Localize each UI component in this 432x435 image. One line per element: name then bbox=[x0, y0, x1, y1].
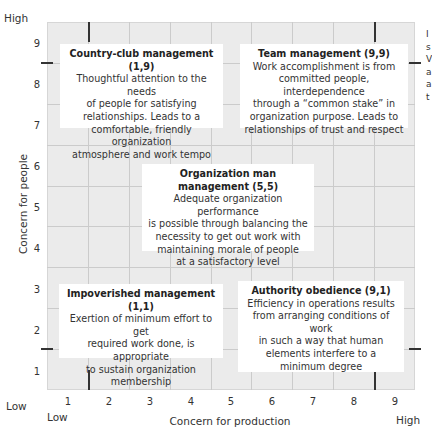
box-title: Organization man management (5,5) bbox=[145, 168, 311, 193]
x-axis-high-label: High bbox=[396, 414, 420, 426]
team-management-box: Team management (9,9) Work accomplishmen… bbox=[240, 44, 408, 128]
x-axis-low-label: Low bbox=[47, 411, 68, 423]
box-title: Authority obedience (9,1) bbox=[241, 285, 401, 298]
x-tick-2: 2 bbox=[102, 396, 116, 407]
marker-tick bbox=[409, 62, 421, 64]
x-tick-8: 8 bbox=[347, 396, 361, 407]
box-description: Efficiency in operations results from ar… bbox=[241, 298, 401, 374]
box-description: Adequate organization performance is pos… bbox=[145, 193, 311, 269]
x-axis-title: Concern for production bbox=[150, 415, 310, 427]
country-club-management-box: Country-club management (1,9) Thoughtful… bbox=[60, 44, 223, 128]
y-tick-3: 3 bbox=[26, 284, 40, 295]
box-description: Work accomplishment is from committed pe… bbox=[243, 61, 405, 137]
marker-tick bbox=[409, 348, 421, 350]
impoverished-management-box: Impoverished management (1,1) Exertion o… bbox=[59, 284, 223, 358]
cropped-edge-text: I s V a a t bbox=[426, 28, 432, 103]
marker-tick bbox=[88, 22, 90, 42]
box-description: Thoughtful attention to the needs of peo… bbox=[63, 73, 220, 161]
x-tick-4: 4 bbox=[184, 396, 198, 407]
authority-obedience-box: Authority obedience (9,1) Efficiency in … bbox=[238, 281, 404, 372]
y-axis-title: Concern for people bbox=[17, 139, 29, 269]
y-tick-8: 8 bbox=[26, 79, 40, 90]
x-tick-3: 3 bbox=[143, 396, 157, 407]
marker-tick bbox=[374, 22, 376, 42]
box-title: Team management (9,9) bbox=[243, 48, 405, 61]
x-tick-6: 6 bbox=[265, 396, 279, 407]
y-tick-9: 9 bbox=[26, 38, 40, 49]
box-description: Exertion of minimum effort to get requir… bbox=[62, 313, 220, 389]
marker-tick bbox=[41, 348, 53, 350]
y-tick-7: 7 bbox=[26, 120, 40, 131]
x-tick-9: 9 bbox=[388, 396, 402, 407]
box-title: Country-club management (1,9) bbox=[63, 48, 220, 73]
x-tick-7: 7 bbox=[306, 396, 320, 407]
x-tick-1: 1 bbox=[61, 396, 75, 407]
box-title: Impoverished management (1,1) bbox=[62, 288, 220, 313]
y-axis-low-label: Low bbox=[6, 400, 27, 412]
y-axis-high-label: High bbox=[4, 12, 28, 24]
y-tick-1: 1 bbox=[26, 366, 40, 377]
organization-man-management-box: Organization man management (5,5) Adequa… bbox=[142, 164, 314, 251]
marker-tick bbox=[41, 62, 53, 64]
x-tick-5: 5 bbox=[224, 396, 238, 407]
y-tick-2: 2 bbox=[26, 325, 40, 336]
